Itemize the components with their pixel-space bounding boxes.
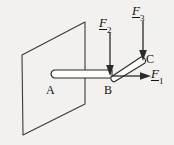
force-label-f3-subscript: 3 [140, 13, 145, 23]
force-label-f3: F3 [132, 4, 144, 21]
force-label-f2-base: F [99, 16, 107, 30]
force-label-f3-base: F [132, 4, 140, 18]
force-label-f2-subscript: 2 [107, 25, 112, 35]
force-label-f1: F1 [151, 67, 163, 84]
point-label-b: B [104, 84, 112, 96]
physics-diagram-figure: A B C F1 F2 F3 [0, 0, 174, 145]
point-label-a: A [46, 84, 55, 96]
rod-ab [51, 70, 112, 78]
force-label-f2: F2 [99, 16, 111, 33]
force-label-f1-subscript: 1 [159, 76, 164, 86]
diagram-canvas [0, 0, 174, 145]
point-label-c: C [146, 53, 154, 65]
force-label-f1-base: F [151, 67, 159, 81]
